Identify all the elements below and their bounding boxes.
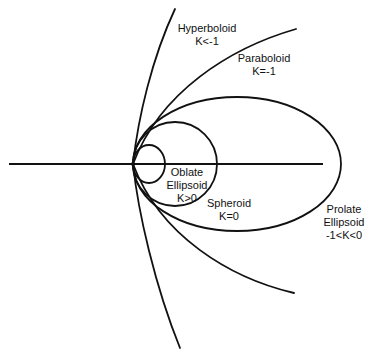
paraboloid-label: Paraboloid K=-1 (229, 52, 299, 78)
oblate-name: Oblate (162, 166, 212, 179)
spheroid-condition: K=0 (199, 210, 259, 223)
prolate-name: Prolate (319, 203, 369, 216)
prolate-condition: -1<K<0 (319, 229, 369, 242)
paraboloid-name: Paraboloid (229, 52, 299, 65)
prolate-ellipsoid-label: Prolate Ellipsoid -1<K<0 (319, 203, 369, 242)
vertex-point (131, 162, 135, 166)
spheroid-label: Spheroid K=0 (199, 197, 259, 223)
prolate-name2: Ellipsoid (319, 216, 369, 229)
paraboloid-condition: K=-1 (229, 65, 299, 78)
hyperboloid-condition: K<-1 (172, 35, 242, 48)
hyperboloid-name: Hyperboloid (172, 22, 242, 35)
spheroid-name: Spheroid (199, 197, 259, 210)
oblate-name2: Ellipsoid (162, 179, 212, 192)
hyperboloid-label: Hyperboloid K<-1 (172, 22, 242, 48)
